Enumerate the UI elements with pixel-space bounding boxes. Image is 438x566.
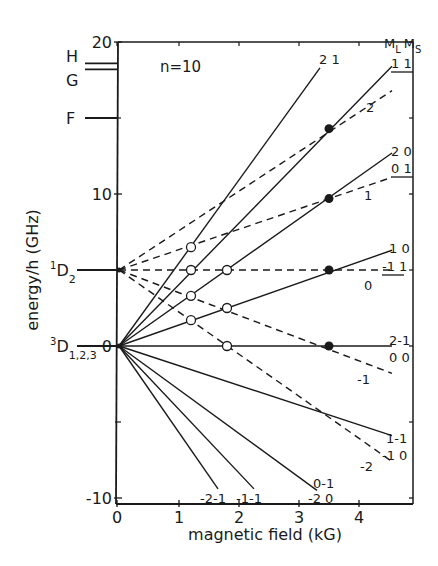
series-line bbox=[119, 346, 254, 489]
x-tick-label: 4 bbox=[354, 508, 364, 527]
series-label: 2-1 bbox=[389, 333, 410, 348]
y-tick-label: 20 bbox=[92, 33, 112, 52]
state-1d2-label: 1D2 bbox=[50, 260, 76, 286]
series-line bbox=[119, 91, 392, 270]
series-label: 2 bbox=[366, 100, 374, 115]
open-crossing-marker bbox=[187, 316, 196, 325]
origin-3d-marker bbox=[117, 344, 122, 349]
series-label: 1 1 bbox=[391, 56, 412, 71]
series-label: 0-1 bbox=[313, 476, 334, 491]
filled-crossing-marker bbox=[325, 266, 334, 275]
level-label-h: H bbox=[66, 47, 78, 66]
state-3d123-label: 3D1,2,3 bbox=[50, 336, 97, 362]
x-tick-label: 0 bbox=[112, 508, 122, 527]
open-crossing-marker bbox=[223, 266, 232, 275]
series-line bbox=[119, 270, 392, 373]
series-label: 2 1 bbox=[319, 52, 340, 67]
series-line bbox=[119, 346, 317, 490]
series-label: 0 1 bbox=[391, 161, 412, 176]
series-label: -1 0 bbox=[382, 448, 407, 463]
series-labels: 2 11 12 00 11 0-1 12-10 01-1-1 00-1-2 0-… bbox=[200, 36, 421, 506]
open-crossing-marker bbox=[187, 266, 196, 275]
legend-header: MLMS bbox=[384, 36, 421, 55]
series-label: 1 0 bbox=[389, 241, 410, 256]
series-line bbox=[119, 153, 392, 346]
series-label: -2-1 bbox=[200, 491, 226, 506]
open-crossing-marker bbox=[187, 291, 196, 300]
open-crossing-marker bbox=[223, 304, 232, 313]
series-label: 0 bbox=[364, 278, 372, 293]
y-tick-label: 10 bbox=[92, 185, 112, 204]
y-tick-label: -10 bbox=[86, 489, 112, 508]
series-label: 2 0 bbox=[391, 144, 412, 159]
series-label: 1 bbox=[364, 188, 372, 203]
y-axis-line bbox=[116, 42, 118, 504]
series-label: -1-1 bbox=[236, 491, 262, 506]
series-label: -1 1 bbox=[382, 259, 407, 274]
level-label-g: G bbox=[66, 71, 78, 90]
x-tick-label: 1 bbox=[174, 508, 184, 527]
series-line bbox=[119, 177, 392, 270]
series-lines bbox=[119, 66, 392, 490]
series-label: -2 bbox=[360, 459, 373, 474]
open-crossing-marker bbox=[223, 342, 232, 351]
filled-crossing-marker bbox=[325, 194, 334, 203]
series-label: -1 bbox=[357, 372, 370, 387]
series-label: -2 0 bbox=[308, 491, 333, 506]
y-axis-label: energy/h (GHz) bbox=[23, 209, 42, 331]
series-line bbox=[119, 346, 218, 489]
series-label: 0 0 bbox=[389, 350, 410, 365]
series-label: 1-1 bbox=[386, 431, 407, 446]
axes: -100102001234HGF1D23D1,2,3 bbox=[50, 33, 413, 527]
x-axis-label: magnetic field (kG) bbox=[188, 525, 342, 544]
open-crossing-marker bbox=[187, 243, 196, 252]
origin-1d2-marker bbox=[117, 268, 122, 273]
level-label-f: F bbox=[66, 109, 75, 128]
filled-crossing-marker bbox=[325, 342, 334, 351]
zeeman-energy-chart: -100102001234HGF1D23D1,2,3 2 11 12 00 11… bbox=[0, 0, 438, 566]
filled-crossing-marker bbox=[325, 124, 334, 133]
series-line bbox=[119, 346, 392, 436]
series-line bbox=[119, 66, 392, 346]
series-line bbox=[119, 68, 320, 346]
chart-title: n=10 bbox=[160, 58, 201, 76]
